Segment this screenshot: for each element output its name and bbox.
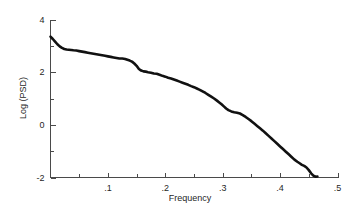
x-axis-tick-labels: .1.2.3.4.5	[104, 183, 341, 193]
y-axis-title: Log (PSD)	[18, 77, 28, 119]
x-tick-label: .2	[162, 183, 170, 193]
y-axis-ticks	[51, 21, 56, 179]
y-axis-tick-labels: 420-2	[36, 15, 44, 183]
x-axis-title: Frequency	[169, 193, 212, 203]
x-axis-ticks	[80, 173, 339, 178]
data-series-line	[51, 37, 318, 177]
x-tick-label: .4	[276, 183, 284, 193]
x-tick-label: .3	[219, 183, 227, 193]
y-tick-label: 0	[39, 120, 44, 130]
y-tick-label: 4	[39, 15, 44, 25]
psd-line-chart: 420-2 .1.2.3.4.5 Log (PSD) Frequency	[0, 0, 356, 212]
y-tick-label: 2	[39, 67, 44, 77]
x-tick-label: .5	[334, 183, 342, 193]
x-tick-label: .1	[104, 183, 112, 193]
figure-container: 420-2 .1.2.3.4.5 Log (PSD) Frequency	[0, 0, 356, 212]
y-tick-label: -2	[36, 173, 44, 183]
